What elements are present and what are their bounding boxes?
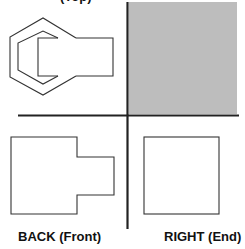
top-view-shape bbox=[10, 18, 113, 95]
shaded-quadrant bbox=[129, 2, 237, 114]
right-view-shape bbox=[144, 137, 219, 214]
back-view-shape bbox=[11, 137, 114, 214]
right-view-label: RIGHT (End) bbox=[164, 229, 241, 244]
back-view-label: BACK (Front) bbox=[18, 229, 101, 244]
projection-diagram bbox=[0, 0, 245, 249]
top-view-label: (Top) bbox=[60, 0, 92, 4]
